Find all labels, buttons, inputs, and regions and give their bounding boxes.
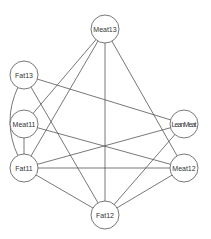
- node-layer: Meat13Fat13Meat11LeanMeatFat11Meat12Fat1…: [10, 15, 198, 229]
- node-label: Meat12: [172, 165, 195, 172]
- node-fat12[interactable]: Fat12: [91, 201, 119, 229]
- node-meat12[interactable]: Meat12: [170, 154, 198, 182]
- node-meat11[interactable]: Meat11: [10, 110, 38, 138]
- node-label: Meat11: [13, 121, 36, 128]
- node-meat13[interactable]: Meat13: [91, 15, 119, 43]
- node-fat11[interactable]: Fat11: [10, 154, 38, 182]
- node-label: Fat12: [96, 212, 114, 219]
- node-label: Fat13: [15, 72, 33, 79]
- edge-meat13-meat12: [105, 29, 184, 168]
- edge-meat13-fat11: [24, 29, 105, 168]
- node-label: LeanMeat: [172, 121, 197, 128]
- node-label: Meat13: [93, 26, 116, 33]
- node-fat13[interactable]: Fat13: [10, 61, 38, 89]
- graph-canvas: Meat13Fat13Meat11LeanMeatFat11Meat12Fat1…: [0, 0, 211, 239]
- node-leanmeat[interactable]: LeanMeat: [170, 110, 198, 138]
- node-label: Fat11: [15, 165, 32, 172]
